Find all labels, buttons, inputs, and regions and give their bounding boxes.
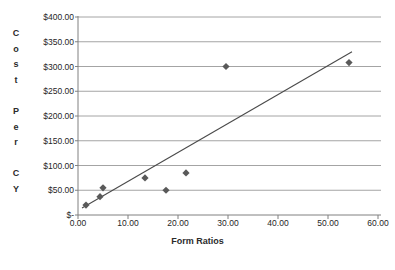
trendline [82,52,352,208]
x-tick-label: 40.00 [255,218,301,228]
x-tick-label: 60.00 [355,218,395,228]
data-point-markers [82,59,352,209]
scatter-chart: C o s t P e r C Y $-$50.00$100.00$150.00… [0,0,395,270]
data-point [222,63,229,70]
x-axis-tick-labels: 0.0010.0020.0030.0040.0050.0060.00 [0,218,395,232]
data-point [141,174,148,181]
x-tick-label: 50.00 [305,218,351,228]
x-tick-label: 30.00 [205,218,251,228]
data-point [162,187,169,194]
x-tick-label: 0.00 [55,218,101,228]
x-tick-label: 10.00 [105,218,151,228]
trendline-segment [82,52,352,208]
x-axis-title: Form Ratios [0,236,395,246]
data-point [182,169,189,176]
gridlines [78,17,381,190]
data-point [345,59,352,66]
x-tick-label: 20.00 [155,218,201,228]
